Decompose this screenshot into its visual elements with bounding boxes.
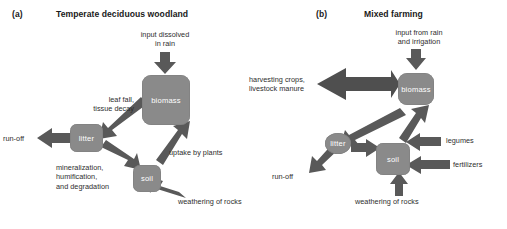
arrow-legumes-to-soil <box>406 133 441 151</box>
node-litter-b[interactable]: litter <box>325 133 351 154</box>
panel-mixed-farming: (b) Mixed farming biomass litter soil in… <box>254 0 507 229</box>
label-harvesting-crops-livestock-manure: harvesting crops, livestock manure <box>249 75 305 94</box>
node-biomass-a-label: biomass <box>151 96 181 105</box>
arrow-litter-to-runoff <box>37 128 70 148</box>
label-mineralization-humification-degradation: mineralization, humification, and degrad… <box>56 163 109 191</box>
node-soil-b-label: soil <box>387 155 399 164</box>
arrow-biomass-to-harvesting <box>317 68 400 100</box>
node-biomass-a[interactable]: biomass <box>142 75 190 125</box>
label-uptake-by-plants: uptake by plants <box>169 148 222 157</box>
node-biomass-b-label: biomass <box>401 85 431 94</box>
arrow-fertilizers-to-soil <box>406 156 450 174</box>
label-legumes: legumes <box>446 136 474 145</box>
panel-temperate-deciduous-woodland: (a) Temperate deciduous woodland biomass… <box>0 0 253 229</box>
label-weathering-of-rocks-b: weathering of rocks <box>355 197 419 206</box>
label-weathering-of-rocks-a: weathering of rocks <box>178 197 242 206</box>
node-soil-a-label: soil <box>141 174 153 183</box>
node-litter-a-label: litter <box>79 134 95 143</box>
label-leaf-fall-tissue-decay: leaf fall, tissue decay <box>60 95 134 114</box>
label-run-off-b: run-off <box>272 172 293 181</box>
arrow-input-rain-irrigation-to-biomass <box>406 49 426 70</box>
node-litter-b-label: litter <box>330 139 346 148</box>
label-fertilizers: fertilizers <box>453 160 482 169</box>
label-run-off-a: run-off <box>3 134 24 143</box>
arrow-weathering-to-soil-b <box>390 172 408 196</box>
label-input-from-rain-and-irrigation: input from rain and irrigation <box>374 28 464 47</box>
node-litter-a[interactable]: litter <box>70 124 103 152</box>
node-soil-b[interactable]: soil <box>376 143 410 175</box>
node-biomass-b[interactable]: biomass <box>398 73 434 105</box>
arrow-input-rain-to-biomass <box>154 52 176 74</box>
node-soil-a[interactable]: soil <box>133 165 161 192</box>
label-input-dissolved-in-rain: input dissolved in rain <box>122 30 208 49</box>
arrow-soil-to-biomass <box>156 121 190 165</box>
